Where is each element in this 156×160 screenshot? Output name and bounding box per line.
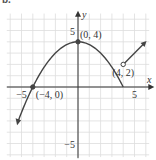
point-filled — [31, 85, 35, 89]
point-open — [121, 62, 125, 66]
point-label: (0, 4) — [80, 29, 102, 41]
curve-arrow-icon — [16, 118, 22, 125]
x-axis-label: x — [146, 74, 152, 85]
point-filled — [76, 40, 80, 44]
point-label: (4, 2) — [112, 67, 134, 79]
x-tick-label: 5 — [132, 89, 137, 100]
y-axis-arrow-icon — [75, 11, 81, 17]
linear-piece — [123, 44, 143, 64]
curve — [16, 41, 147, 125]
point-label: (−4, 0) — [36, 89, 63, 101]
y-tick-label: −5 — [64, 139, 75, 150]
y-axis-label: y — [81, 9, 87, 20]
y-tick-label: 5 — [70, 26, 75, 37]
function-graph: −555−5xy(−4, 0)(0, 4)(4, 2) — [0, 0, 156, 160]
x-tick-label: −5 — [16, 89, 27, 100]
